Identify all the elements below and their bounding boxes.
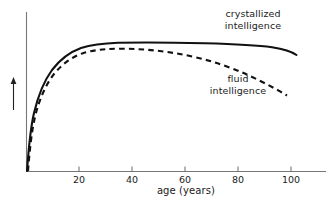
annotation-crystallized-line1: crystallized	[205, 8, 301, 20]
x-tick-label-40: 40	[117, 174, 147, 185]
x-tick-label-20: 20	[64, 174, 94, 185]
y-axis-arrow-icon	[11, 77, 17, 110]
intelligence-age-chart: crystallized intelligence fluid intellig…	[0, 0, 336, 205]
x-tick-label-80: 80	[223, 174, 253, 185]
x-axis-ticks	[79, 167, 291, 172]
series-fluid-intelligence-curve	[28, 49, 287, 171]
annotation-fluid-line1: fluid	[200, 73, 276, 85]
x-tick-label-100: 100	[276, 174, 306, 185]
x-tick-label-60: 60	[170, 174, 200, 185]
x-axis-title: age (years)	[140, 185, 232, 197]
annotation-crystallized-intelligence: crystallized intelligence	[205, 8, 301, 31]
annotation-fluid-intelligence: fluid intelligence	[200, 73, 276, 96]
annotation-fluid-line2: intelligence	[200, 85, 276, 97]
annotation-crystallized-line2: intelligence	[205, 20, 301, 32]
